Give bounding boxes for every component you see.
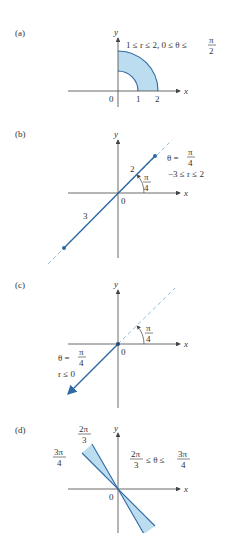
- angle-four: 4: [144, 183, 149, 193]
- angle-pi: π: [144, 172, 149, 182]
- origin-label: 0: [121, 347, 126, 357]
- region-condition: 1 ≤ r ≤ 2, 0 ≤ θ ≤: [126, 40, 187, 50]
- angle-pi: π: [146, 323, 151, 333]
- ray-3pi-4: [82, 453, 155, 526]
- ray1-num: 2π: [79, 424, 89, 434]
- angle-arc: [137, 326, 144, 344]
- length-label-2: 2: [130, 164, 135, 174]
- cond-pi: π: [209, 35, 214, 45]
- x-axis-label: x: [183, 484, 188, 494]
- cond-two: 2: [209, 46, 214, 56]
- cond-r: −3 ≤ r ≤ 2: [168, 169, 204, 179]
- polar-regions-figure: (a) x y 0 1 2 1 ≤ r ≤ 2, 0 ≤ θ ≤ π 2 (b)…: [0, 0, 225, 533]
- wedge-upper: [82, 444, 118, 489]
- cond-mid: ≤ θ ≤: [146, 455, 165, 465]
- x-axis-label: x: [183, 339, 188, 349]
- cond-theta-four: 4: [79, 358, 84, 368]
- panel-b-label: (b): [15, 129, 26, 139]
- cond-left-den: 3: [134, 460, 139, 470]
- angle-arc: [137, 175, 144, 193]
- ray1-den: 3: [82, 435, 87, 445]
- cond-right-num: 3π: [178, 449, 188, 459]
- y-axis-label: y: [113, 129, 118, 139]
- origin-label: 0: [109, 94, 114, 104]
- y-axis-label: y: [113, 279, 118, 289]
- endpoint-lower: [62, 246, 66, 250]
- cond-right-den: 4: [181, 460, 186, 470]
- panel-a-label: (a): [15, 28, 25, 38]
- cond-theta-pi: π: [79, 347, 84, 357]
- cond-left-num: 2π: [131, 449, 141, 459]
- origin-label: 0: [121, 196, 126, 206]
- tick-1: 1: [136, 94, 141, 104]
- segment: [64, 156, 155, 248]
- x-axis-label: x: [183, 86, 188, 96]
- panel-b: (b) x y 0 2 3 π 4 θ = π 4 −3 ≤ r ≤ 2: [15, 129, 204, 264]
- cond-theta: θ =: [58, 353, 70, 363]
- origin-point: [116, 342, 120, 346]
- cond-theta-four: 4: [188, 158, 193, 168]
- y-axis-label: y: [113, 423, 118, 433]
- length-label-3: 3: [83, 211, 88, 221]
- angle-four: 4: [146, 334, 151, 344]
- wedge-lower: [118, 489, 155, 533]
- origin-label: 0: [109, 492, 114, 502]
- panel-c-label: (c): [15, 280, 25, 290]
- panel-c: (c) x y 0 π 4 θ = π 4 r ≤ 0: [15, 279, 188, 408]
- y-axis-label: y: [113, 27, 118, 37]
- x-axis-label: x: [183, 188, 188, 198]
- annulus-region: [118, 51, 158, 91]
- endpoint-upper: [153, 154, 157, 158]
- panel-a: (a) x y 0 1 2 1 ≤ r ≤ 2, 0 ≤ θ ≤ π 2: [15, 27, 216, 107]
- cond-r: r ≤ 0: [58, 369, 75, 379]
- cond-theta: θ =: [167, 153, 179, 163]
- cond-theta-pi: π: [188, 147, 193, 157]
- panel-d: (d) x y 0 2π 3 3π 4 2π 3 ≤ θ ≤ 3π 4: [15, 423, 190, 533]
- ray2-num: 3π: [54, 447, 64, 457]
- panel-d-label: (d): [15, 425, 26, 435]
- ray2-den: 4: [57, 458, 62, 468]
- tick-2: 2: [155, 94, 160, 104]
- ray: [69, 344, 118, 393]
